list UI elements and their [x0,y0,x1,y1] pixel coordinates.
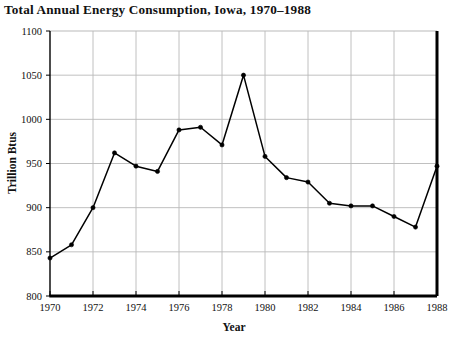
data-point-marker [392,214,396,218]
line-chart: 800850900950100010501100 197019721974197… [0,0,460,337]
x-axis-title: Year [223,321,246,333]
data-point-marker [198,125,202,129]
y-tick-label: 850 [26,246,42,257]
x-tick-label: 1978 [212,302,233,313]
y-axis-title: Trillion Btus [6,131,18,194]
y-tick-label: 800 [26,291,42,302]
x-tick-label: 1970 [40,302,61,313]
x-tick-label: 1988 [427,302,448,313]
series-line [50,75,437,258]
data-point-marker [284,176,288,180]
y-tick-label: 1100 [21,26,42,37]
data-point-marker [69,243,73,247]
x-tick-label: 1984 [341,302,363,313]
data-series-line [50,75,437,258]
x-axis-tick-labels: 1970197219741976197819801982198419861988 [40,302,448,313]
x-tick-label: 1986 [384,302,405,313]
data-point-marker [220,143,224,147]
data-point-marker [263,154,267,158]
data-point-markers [48,73,439,260]
data-point-marker [48,256,52,260]
data-point-marker [155,169,159,173]
y-tick-label: 1050 [21,70,42,81]
x-tick-label: 1974 [126,302,148,313]
data-point-marker [112,151,116,155]
y-tick-label: 900 [26,202,42,213]
data-point-marker [370,204,374,208]
y-tick-label: 950 [26,158,42,169]
data-point-marker [413,225,417,229]
data-point-marker [241,73,245,77]
y-axis-tick-labels: 800850900950100010501100 [21,26,42,302]
x-tick-label: 1980 [255,302,276,313]
data-point-marker [177,128,181,132]
data-point-marker [91,206,95,210]
data-point-marker [306,180,310,184]
x-tick-label: 1976 [169,302,190,313]
data-point-marker [327,201,331,205]
data-point-marker [134,164,138,168]
grid-lines [50,31,437,296]
chart-container: 800850900950100010501100 197019721974197… [0,0,460,337]
x-tick-label: 1972 [83,302,104,313]
data-point-marker [349,204,353,208]
x-tick-label: 1982 [298,302,319,313]
data-point-marker [435,164,439,168]
y-tick-label: 1000 [21,114,42,125]
